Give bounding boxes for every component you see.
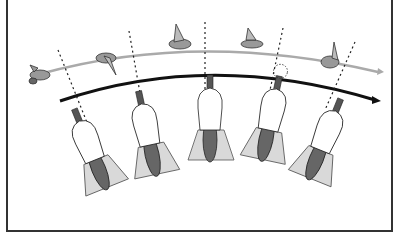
flight-path-arrowhead	[377, 68, 384, 75]
hand	[309, 106, 347, 154]
duck-5	[321, 42, 339, 68]
hand	[68, 116, 106, 164]
hand-gun-1	[54, 100, 129, 198]
duck-1	[29, 65, 50, 84]
hand-gun-2	[117, 86, 180, 181]
hand	[256, 86, 289, 132]
hand-gun-5	[288, 91, 363, 189]
hand	[129, 101, 162, 147]
duck-2	[96, 53, 116, 75]
swing-arc-arrowhead	[372, 96, 381, 104]
hand-gun-3	[188, 75, 234, 162]
shotgun-swing-illustration	[0, 0, 403, 236]
hand	[198, 88, 223, 130]
duck-4	[241, 28, 263, 48]
duck-3	[169, 24, 191, 49]
